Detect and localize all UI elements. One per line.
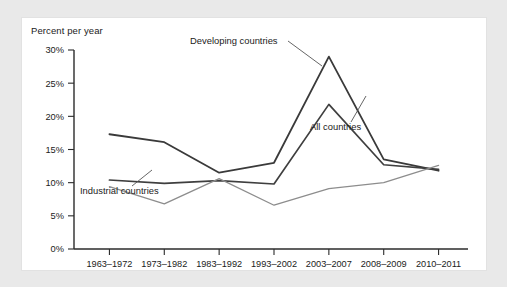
x-tick-label: 2008–2009 <box>361 259 407 269</box>
page-background: Percent per year 0%5%10%15%20%25%30% 196… <box>0 0 507 287</box>
series-annotation-leader <box>351 96 366 122</box>
y-tick-label: 30% <box>45 45 64 55</box>
x-tick-label: 2003–2007 <box>306 259 352 269</box>
x-tick-label: 1993–2002 <box>251 259 297 269</box>
chart-series-group <box>109 57 438 206</box>
series-annotation-leader <box>288 41 322 66</box>
y-tick-label: 0% <box>51 244 64 254</box>
chart-axes <box>74 50 468 249</box>
series-annotation-label: All countries <box>310 121 361 132</box>
series-annotation-label: Industrial countries <box>80 185 159 196</box>
series-line-industrial-countries <box>109 165 438 205</box>
series-annotation-leader <box>132 170 152 186</box>
series-line-developing-countries <box>109 57 438 173</box>
x-axis-ticks: 1963–19721973–19821983–19921993–20022003… <box>86 249 461 269</box>
y-tick-label: 15% <box>45 145 64 155</box>
y-tick-label: 25% <box>45 79 64 89</box>
y-tick-label: 10% <box>45 178 64 188</box>
series-annotation-label: Developing countries <box>190 35 278 46</box>
x-tick-label: 1983–1992 <box>196 259 242 269</box>
x-tick-label: 1963–1972 <box>86 259 132 269</box>
series-line-all-countries <box>109 104 438 184</box>
x-tick-label: 2010–2011 <box>416 259 461 269</box>
y-tick-label: 5% <box>51 211 64 221</box>
chart-card: Percent per year 0%5%10%15%20%25%30% 196… <box>22 18 486 270</box>
y-tick-label: 20% <box>45 112 64 122</box>
line-chart: 0%5%10%15%20%25%30% 1963–19721973–198219… <box>22 18 486 270</box>
y-axis-ticks: 0%5%10%15%20%25%30% <box>45 45 74 254</box>
x-tick-label: 1973–1982 <box>141 259 187 269</box>
